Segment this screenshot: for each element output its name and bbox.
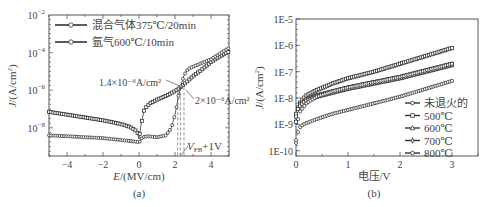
x-tick-label: 0 <box>294 159 299 170</box>
x-axis-label-b: 电压/V <box>358 170 391 182</box>
y-tick-label: 1E-9 <box>274 119 293 130</box>
y-tick-label: 10−6 <box>28 83 46 96</box>
figure: −4−202410−210−410−610−8 混合气体375℃/20min氩气… <box>0 0 489 207</box>
legend-item: 700℃ <box>424 135 453 147</box>
x-tick-label: 4 <box>209 159 214 170</box>
x-tick-label: −2 <box>98 159 109 170</box>
y-tick-label: 1E-6 <box>274 40 293 51</box>
x-tick-label: 2 <box>173 159 178 170</box>
y-tick-label: 1E-7 <box>274 67 293 78</box>
x-tick-label: 1 <box>346 159 351 170</box>
legend-a: 混合气体375℃/20min氩气600℃/10min <box>55 18 196 48</box>
x-tick-label: −4 <box>62 159 73 170</box>
x-tick-label: 2 <box>398 159 403 170</box>
annotation-vfb: VFB+1V <box>187 140 222 154</box>
legend-item: 混合气体375℃/20min <box>92 18 196 31</box>
legend-item: 500℃ <box>424 110 453 122</box>
x-tick-label: 3 <box>450 159 455 170</box>
y-tick-label: 10−4 <box>28 46 46 59</box>
legend-item: 800℃ <box>424 147 453 159</box>
annotation-2e-6: 2×10⁻⁶A/cm² <box>195 95 250 106</box>
x-axis-label-a: E/(MV/cm) <box>112 170 165 183</box>
y-tick-label: 1E-8 <box>274 93 293 104</box>
panel-label-b: (b) <box>368 187 381 200</box>
y-axis-label-b: J/(A/cm2) <box>253 66 266 110</box>
legend-item: 600℃ <box>424 122 453 134</box>
y-tick-label: 10−8 <box>28 121 46 134</box>
annotation-1p4e-6: 1.4×10⁻⁶A/cm² <box>99 77 161 88</box>
legend-item: 氩气600℃/10min <box>92 35 174 48</box>
chart-panel-a: −4−202410−210−410−610−8 混合气体375℃/20min氩气… <box>6 8 250 200</box>
legend-item: 未退火的 <box>424 96 468 109</box>
y-tick-label: 1E-5 <box>274 14 293 25</box>
chart-panel-b: 01231E-51E-61E-71E-81E-91E-10 未退火的500℃60… <box>253 14 478 200</box>
legend-b: 未退火的500℃600℃700℃800℃ <box>405 96 468 159</box>
y-tick-label: 10−2 <box>28 8 46 21</box>
panel-label-a: (a) <box>133 187 146 200</box>
x-tick-label: 0 <box>137 159 142 170</box>
y-tick-label: 1E-10 <box>269 146 293 157</box>
y-axis-label-a: J/(A/cm2) <box>6 64 19 108</box>
